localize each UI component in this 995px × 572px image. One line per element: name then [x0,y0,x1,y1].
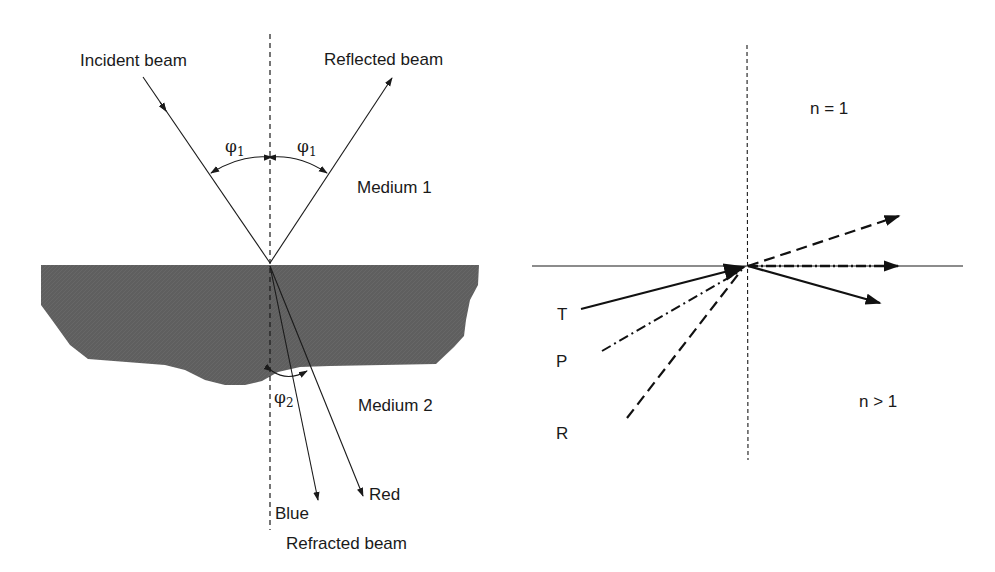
phi-symbol: φ [297,136,309,156]
phi1-right-label: φ1 [297,138,317,158]
ray-p-incoming [602,270,742,351]
normal-line-right [747,45,748,460]
left-diagram [41,34,479,530]
phi1-right-arc [272,157,327,173]
ray-t-outgoing [748,266,880,303]
phi2-label: φ2 [274,389,294,409]
medium-1-label: Medium 1 [357,179,432,196]
reflected-beam [270,78,392,263]
medium-2-label: Medium 2 [358,397,433,414]
phi-symbol: φ [225,136,237,156]
reflected-beam-label: Reflected beam [324,51,443,68]
n-equals-1-label: n = 1 [810,100,848,117]
ray-r-label: R [556,425,568,442]
right-diagram [532,45,963,460]
ray-t-label: T [557,306,567,323]
red-label: Red [369,486,400,503]
ray-p-label: P [556,353,567,370]
phi-subscript: 1 [237,145,245,159]
ray-r-outgoing [748,216,899,266]
refracted-beam-label: Refracted beam [286,535,407,552]
incident-arrowhead-icon [160,102,166,111]
phi-subscript: 1 [309,145,317,159]
n-greater-1-label: n > 1 [859,393,897,410]
incident-beam-label: Incident beam [80,52,187,69]
phi-symbol: φ [274,387,286,407]
ray-t-incoming [581,267,744,309]
phi1-left-arc [211,157,268,173]
diagram-canvas [0,0,995,572]
phi-subscript: 2 [286,396,294,410]
medium-2-region [41,265,479,385]
blue-label: Blue [275,505,309,522]
phi1-left-label: φ1 [225,138,245,158]
